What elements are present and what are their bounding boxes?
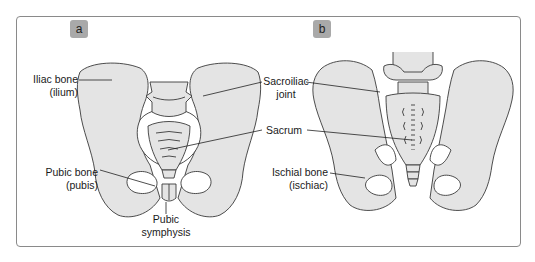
label-line: Ischial bone: [262, 166, 328, 179]
label-iliac-bone: Iliac bone (ilium): [26, 73, 78, 99]
label-line: (pubis): [36, 179, 98, 192]
label-pubic-bone: Pubic bone (pubis): [36, 166, 98, 192]
label-line: Iliac bone: [26, 73, 78, 86]
label-line: joint: [258, 88, 314, 101]
label-line: (ilium): [26, 86, 78, 99]
label-line: Sacrum: [262, 124, 306, 137]
label-sacroiliac-joint: Sacroiliac joint: [258, 75, 314, 101]
label-ischial-bone: Ischial bone (ischiac): [262, 166, 328, 192]
label-line: (ischiac): [262, 179, 328, 192]
label-line: Pubic: [140, 213, 192, 226]
pelvis-anterior: [77, 63, 260, 217]
label-line: Pubic bone: [36, 166, 98, 179]
label-sacrum: Sacrum: [262, 124, 306, 137]
label-line: Sacroiliac: [258, 75, 314, 88]
label-line: symphysis: [140, 226, 192, 239]
pelvis-posterior: [313, 52, 513, 210]
label-pubic-symphysis: Pubic symphysis: [140, 213, 192, 239]
